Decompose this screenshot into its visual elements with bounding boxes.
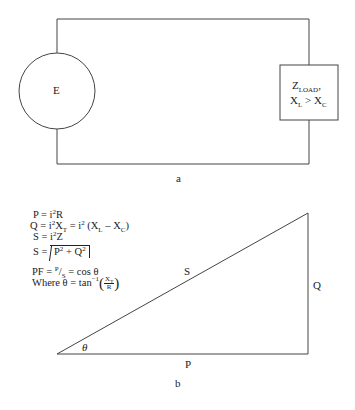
label-angle-theta: θ — [82, 342, 87, 353]
xc-label: X — [314, 94, 322, 106]
circuit-wire-top — [57, 19, 309, 65]
load-label: ZLOAD, — [292, 80, 321, 91]
caption-a: a — [176, 173, 181, 184]
label-adjacent-p: P — [185, 359, 191, 370]
frac-den: R — [104, 284, 114, 291]
eq-q-xl: (X — [85, 220, 99, 231]
caption-b: b — [175, 378, 181, 389]
xc-sub: C — [322, 101, 327, 109]
eq-p-rhs: R — [56, 209, 63, 220]
load-z: Z — [292, 79, 299, 91]
eq-q-lhs: Q = i — [30, 220, 52, 231]
equation-q: Q = i2XT = i2 (XL – XC) — [30, 221, 129, 232]
source-label: E — [53, 85, 60, 96]
eq-where-lhs: Where θ = tan — [32, 277, 92, 288]
eq-p-lhs: P = i — [33, 209, 53, 220]
equation-s-sqrt: S = P2 + Q2 — [33, 245, 90, 258]
load-condition: XL > XC — [290, 95, 327, 106]
sqrt-radical: P2 + Q2 — [50, 245, 90, 258]
eq-s2-q-exp: 2 — [82, 245, 86, 253]
equation-s-impedance: S = i2Z — [33, 232, 63, 243]
eq-s2-q: + Q — [63, 246, 82, 257]
equation-p: P = i2R — [33, 210, 63, 221]
label-hypotenuse-s: S — [184, 266, 190, 277]
xt-over-r-fraction: XTR — [104, 276, 114, 291]
circuit-wire-bottom — [57, 120, 309, 164]
eq-q-close: ) — [125, 220, 129, 231]
eq-s1-rhs: Z — [56, 231, 62, 242]
load-sub: LOAD — [299, 86, 318, 94]
greater-than: > — [302, 94, 314, 106]
eq-s1-lhs: S = i — [33, 231, 53, 242]
eq-q-eq2: = i — [67, 220, 81, 231]
eq-where-exp: −1 — [92, 275, 99, 283]
equation-theta: Where θ = tan−1(XTR) — [32, 276, 119, 291]
xl-label: X — [290, 94, 298, 106]
label-opposite-q: Q — [313, 280, 321, 291]
diagram-lines — [0, 0, 355, 410]
eq-q-xc: – X — [103, 220, 121, 231]
paren-close: ) — [114, 275, 119, 291]
load-comma: , — [318, 79, 321, 91]
